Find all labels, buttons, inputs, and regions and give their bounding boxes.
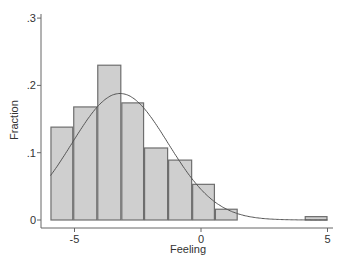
histogram-bar xyxy=(215,209,237,220)
y-axis-ticks: 0.1.2.3 xyxy=(27,12,41,226)
x-tick-label: -5 xyxy=(70,233,80,245)
histogram-bar xyxy=(98,65,121,220)
histogram-bar xyxy=(145,148,168,220)
histogram-bar xyxy=(169,160,192,220)
histogram-bar xyxy=(74,107,97,220)
y-tick-label: 0 xyxy=(30,214,36,226)
histogram-bar xyxy=(193,184,215,220)
histogram-bar xyxy=(122,103,144,220)
y-axis-title: Fraction xyxy=(8,100,20,140)
x-axis-title: Feeling xyxy=(170,243,206,255)
x-tick-label: 5 xyxy=(324,233,330,245)
histogram-chart: 0.1.2.3 -505 Feeling Fraction xyxy=(0,0,342,267)
histogram-bars xyxy=(51,65,327,220)
y-tick-label: .3 xyxy=(27,12,36,24)
y-tick-label: .1 xyxy=(27,147,36,159)
y-tick-label: .2 xyxy=(27,79,36,91)
histogram-bar xyxy=(51,127,73,220)
